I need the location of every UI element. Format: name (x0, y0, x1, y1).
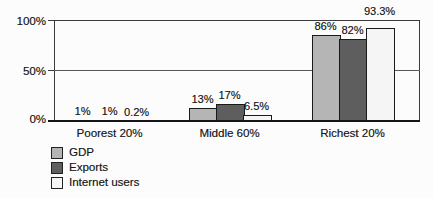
legend-item-exports: Exports (51, 162, 139, 173)
bar-gdp-richest-20 (312, 35, 341, 121)
category-label-poorest-20: Poorest 20% (77, 127, 143, 139)
bar-value-label-gdp-richest-20: 86% (314, 21, 336, 32)
y-axis-label-50: 50% (0, 65, 46, 78)
legend-swatch-gdp (51, 147, 63, 159)
bar-value-label-internet-users-richest-20: 93.3% (364, 6, 395, 17)
y-axis-label-100: 100% (0, 15, 46, 28)
category-label-middle-60: Middle 60% (199, 127, 259, 139)
legend-swatch-internet-users (51, 177, 63, 189)
y-axis-label-0: 0% (0, 113, 46, 126)
bar-value-label-exports-richest-20: 82% (341, 25, 363, 36)
x-axis-baseline (48, 120, 420, 122)
legend: GDP Exports Internet users (51, 147, 139, 192)
category-label-richest-20: Richest 20% (320, 127, 385, 139)
bar-value-label-gdp-middle-60: 13% (191, 94, 213, 105)
bar-exports-richest-20 (339, 39, 368, 121)
y-axis-tick-100 (48, 20, 55, 21)
bar-value-label-exports-middle-60: 17% (218, 90, 240, 101)
bar-value-label-exports-poorest-20: 1% (102, 106, 118, 117)
bar-value-label-internet-users-poorest-20: 0.2% (124, 107, 149, 118)
bar-value-label-internet-users-middle-60: 6.5% (244, 101, 269, 112)
legend-label-internet-users: Internet users (69, 177, 139, 188)
bar-exports-middle-60 (216, 104, 245, 121)
bar-value-label-gdp-poorest-20: 1% (75, 106, 91, 117)
legend-label-gdp: GDP (69, 147, 94, 158)
bar-chart-figure: 100% 50% 0% GDP Exports Internet users 1… (0, 0, 433, 198)
bar-internet-users-richest-20 (366, 28, 395, 121)
legend-item-gdp: GDP (51, 147, 139, 158)
legend-swatch-exports (51, 162, 63, 174)
legend-label-exports: Exports (69, 162, 108, 173)
legend-item-internet-users: Internet users (51, 177, 139, 188)
